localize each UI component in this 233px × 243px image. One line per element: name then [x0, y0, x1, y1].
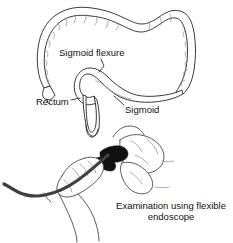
label-sigmoid: Sigmoid [125, 104, 159, 115]
caption-endoscope-examination: Examination using flexible endoscope [112, 200, 230, 222]
label-rectum: Rectum [36, 96, 69, 107]
examination-group [4, 126, 174, 242]
label-sigmoid-flexure: Sigmoid flexure [59, 47, 124, 58]
caption-line-1: Examination using flexible [112, 200, 230, 211]
figure-root: Sigmoid flexure Rectum Sigmoid Examinati… [0, 0, 233, 243]
colon-group [37, 7, 195, 137]
examiner-forearm [78, 194, 99, 241]
leader-sigmoid-flexure [99, 59, 104, 72]
examiner-wrist [59, 194, 77, 242]
caption-line-2: endoscope [112, 211, 230, 222]
sigmoid-colon [74, 68, 183, 105]
